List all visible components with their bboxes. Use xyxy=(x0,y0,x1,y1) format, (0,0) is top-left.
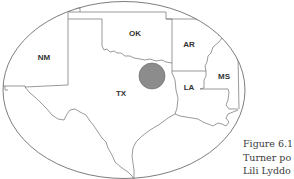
caption-line-2: Turner po xyxy=(243,151,293,165)
border-ok-east xyxy=(166,12,172,63)
border-tx-coast xyxy=(132,114,175,179)
state-label-ok: OK xyxy=(129,29,141,38)
state-label-ms: MS xyxy=(218,72,231,81)
state-label-tx: TX xyxy=(116,89,127,98)
border-rio-grande xyxy=(25,87,134,179)
state-label-la: LA xyxy=(184,83,195,92)
location-marker xyxy=(139,63,165,89)
border-la-ms xyxy=(200,89,238,109)
border-la-coast xyxy=(175,110,238,126)
state-label-nm: NM xyxy=(38,53,51,62)
figure-caption: Figure 6.1 Turner po Lili Lyddo xyxy=(243,137,293,178)
caption-line-3: Lili Lyddo xyxy=(243,164,293,178)
border-nm-corner xyxy=(69,8,80,12)
caption-line-1: Figure 6.1 xyxy=(243,137,293,151)
border-nm-south xyxy=(0,85,68,87)
state-label-ar: AR xyxy=(183,40,195,49)
border-tx-panhandle xyxy=(68,19,102,46)
border-red-river xyxy=(102,46,172,63)
